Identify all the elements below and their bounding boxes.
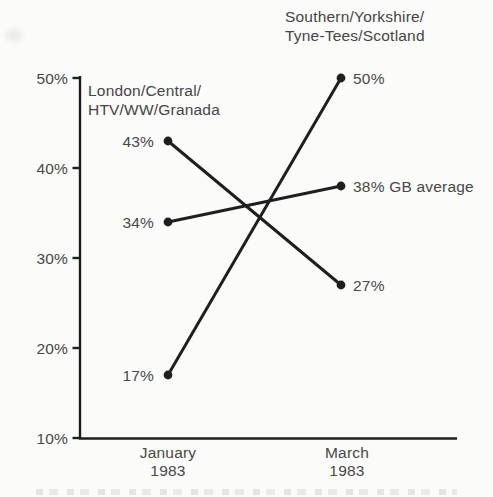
x-axis-label-line: 1983: [277, 462, 417, 480]
point-label: 17%: [122, 367, 154, 384]
point-label: 38% GB average: [353, 178, 474, 195]
data-point: [164, 218, 173, 227]
series-line: [168, 186, 341, 222]
series-label-line: Tyne-Tees/Scotland: [285, 26, 425, 45]
data-point: [337, 281, 346, 290]
x-axis-label-line: March: [277, 444, 417, 462]
point-label: 50%: [353, 70, 385, 87]
series-label-southern-group: Southern/Yorkshire/ Tyne-Tees/Scotland: [285, 7, 425, 45]
series-label-line: Southern/Yorkshire/: [285, 7, 425, 26]
axis-lines: [80, 76, 457, 439]
y-tick-label: 20%: [36, 340, 68, 357]
series-line: [168, 78, 341, 375]
data-point: [164, 371, 173, 380]
series-label-line: HTV/WW/Granada: [88, 100, 220, 119]
slope-chart: 50%40%30%20%10%43%27%17%50%34%38% GB ave…: [0, 0, 493, 497]
x-axis-label-line: January: [98, 444, 238, 462]
scanned-chart-page: 50%40%30%20%10%43%27%17%50%34%38% GB ave…: [0, 0, 493, 497]
data-point: [164, 137, 173, 146]
point-label: 34%: [122, 214, 154, 231]
cropped-caption-artifact: [36, 489, 457, 495]
y-tick-label: 40%: [36, 160, 68, 177]
series-line: [168, 141, 341, 285]
data-point: [337, 74, 346, 83]
y-tick-label: 10%: [36, 430, 68, 447]
y-tick-label: 50%: [36, 70, 68, 87]
x-axis-label-line: 1983: [98, 462, 238, 480]
y-tick-label: 30%: [36, 250, 68, 267]
x-axis-label-january-1983: January 1983: [98, 444, 238, 480]
point-label: 27%: [353, 277, 385, 294]
series-label-london-group: London/Central/ HTV/WW/Granada: [88, 81, 220, 119]
series-label-line: London/Central/: [88, 81, 220, 100]
data-point: [337, 182, 346, 191]
point-label: 43%: [122, 133, 154, 150]
x-axis-label-march-1983: March 1983: [277, 444, 417, 480]
